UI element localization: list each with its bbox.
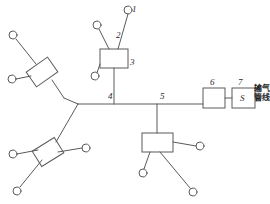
lead-well-bc-left xyxy=(144,152,150,169)
label-5: 5 xyxy=(160,92,165,101)
branch-upper-left-2 xyxy=(52,80,64,98)
well-3-circle xyxy=(91,72,99,80)
well-lower-left-bottom-circle xyxy=(13,187,21,195)
well-2-circle xyxy=(93,21,101,29)
well-upper-left-top-circle xyxy=(9,31,17,39)
pipeline-annotation-line2: 管线 xyxy=(254,93,270,102)
label-4: 4 xyxy=(108,92,113,101)
label-7: 7 xyxy=(238,78,243,87)
well-bottom-left-lower-circle xyxy=(139,169,147,177)
well-1-circle xyxy=(124,6,132,14)
lead-well-ul-top xyxy=(16,39,36,64)
lead-well-ll-bottom xyxy=(20,160,42,187)
diagram-canvas: 1 2 3 4 5 6 7 S 输气 管线 xyxy=(0,0,270,204)
label-6: 6 xyxy=(210,78,215,87)
lead-well-bc-bottom xyxy=(160,152,190,188)
pipeline-annotation-line1: 输气 xyxy=(254,84,270,93)
well-bottom-right-upper-circle xyxy=(196,142,204,150)
well-upper-left-side-circle xyxy=(8,75,16,83)
label-3: 3 xyxy=(130,58,135,67)
station-bottom-center-box xyxy=(142,133,173,152)
lead-well-bc-right xyxy=(173,142,196,146)
well-bottom-right-lower-circle xyxy=(189,188,197,196)
station-letter-s: S xyxy=(240,94,245,103)
well-lower-left-left-circle xyxy=(9,150,17,158)
label-1: 1 xyxy=(132,5,137,14)
pipeline-network-graphic xyxy=(0,0,270,204)
lead-well-2 xyxy=(99,29,109,49)
station-6-box xyxy=(203,88,225,108)
lead-well-ll-left xyxy=(17,150,38,154)
label-2: 2 xyxy=(116,31,121,40)
well-lower-left-right-circle xyxy=(82,144,90,152)
branch-lower-left xyxy=(56,104,78,142)
branch-upper-left xyxy=(64,98,78,104)
station-3-box xyxy=(100,49,128,68)
